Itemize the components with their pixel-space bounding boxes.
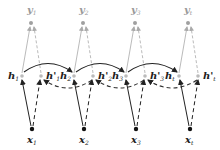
x-node [188,127,192,131]
x-label: x3 [130,134,141,146]
h-backward-node [196,74,200,78]
x-label: xt [184,134,194,146]
column-t: yt ht h't xt [165,4,216,146]
h-backward-label: h'1 [46,70,60,82]
x-label: x1 [26,134,37,146]
h-backward-node [143,74,147,78]
x-node [82,127,86,131]
column-2: y2 h2 h'2 x2 [60,4,112,146]
h-node [124,74,128,78]
y-node [81,21,85,25]
x-node [30,127,34,131]
output-edges [22,27,198,73]
y-label: yt [183,4,193,16]
y-node [29,21,33,25]
y-node [133,21,137,25]
x-node [134,127,138,131]
y-label: y3 [130,4,141,16]
h-node [177,74,181,78]
h-label: h1 [8,70,19,82]
y-label: y2 [78,4,89,16]
h-label: ht [165,70,175,82]
h-backward-label: h'3 [150,70,164,82]
h-backward-node [91,74,95,78]
h-backward-label: h'2 [98,70,112,82]
column-1: y1 h1 h'1 x1 [8,4,60,146]
column-3: y3 h3 h'3 x3 [112,4,164,146]
h-label: h2 [60,70,71,82]
y-node [186,21,190,25]
h-node [20,74,24,78]
h-backward-node [39,74,43,78]
h-node [72,74,76,78]
h-label: h3 [112,70,123,82]
birnn-diagram: y1 h1 h'1 x1 y2 h2 h'2 x2 y3 h3 h'3 x3 y… [0,0,220,150]
y-label: y1 [26,4,37,16]
x-label: x2 [78,134,89,146]
h-backward-label: h't [203,70,216,82]
